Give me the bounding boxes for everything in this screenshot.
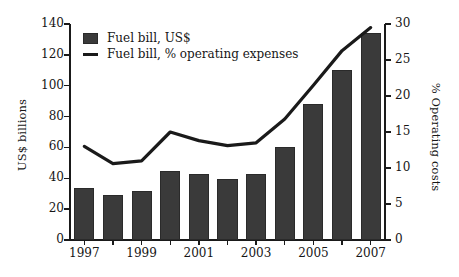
y-axis-right-tick <box>385 239 391 240</box>
legend-label-bar: Fuel bill, US$ <box>107 31 191 47</box>
line-swatch-icon <box>83 53 98 56</box>
y-axis-left-tick-label: 120 <box>24 47 64 61</box>
x-axis-tick-label: 2005 <box>283 246 343 260</box>
y-axis-right-tick-label: 20 <box>395 88 429 102</box>
y-axis-left-tick-label: 40 <box>24 170 64 184</box>
y-axis-left-tick-label: 0 <box>24 232 64 246</box>
x-axis-tick-label: 2007 <box>341 246 401 260</box>
y-axis-left-tick-label: 100 <box>24 78 64 92</box>
chart-legend: Fuel bill, US$ Fuel bill, % operating ex… <box>83 31 298 62</box>
y-axis-right-tick-label: 10 <box>395 160 429 174</box>
legend-label-line: Fuel bill, % operating expenses <box>107 47 298 63</box>
y-axis-right-tick <box>385 95 391 96</box>
y-axis-left-tick-label: 140 <box>24 16 64 30</box>
x-axis-tick-label: 1999 <box>112 246 172 260</box>
y-axis-right-tick-label: 0 <box>395 232 429 246</box>
y-axis-right-tick-label: 30 <box>395 16 429 30</box>
y-axis-right-title: % Operating costs <box>429 77 443 197</box>
y-axis-left-tick-label: 20 <box>24 201 64 215</box>
x-axis-tick-label: 1997 <box>54 246 114 260</box>
x-axis-tick-label: 2001 <box>169 246 229 260</box>
y-axis-right-tick-label: 25 <box>395 52 429 66</box>
y-axis-right-tick <box>385 23 391 24</box>
x-axis-tick-label: 2003 <box>226 246 286 260</box>
y-axis-left-tick-label: 60 <box>24 139 64 153</box>
y-axis-right-tick <box>385 203 391 204</box>
chart-container: US$ billions % Operating costs 020406080… <box>0 0 459 277</box>
y-axis-right-tick <box>385 167 391 168</box>
y-axis-right-tick-label: 5 <box>395 196 429 210</box>
bar-swatch-icon <box>83 33 98 44</box>
y-axis-right-tick <box>385 131 391 132</box>
legend-item-bar: Fuel bill, US$ <box>83 31 298 47</box>
y-axis-right-tick-label: 15 <box>395 124 429 138</box>
y-axis-left-tick-label: 80 <box>24 109 64 123</box>
legend-item-line: Fuel bill, % operating expenses <box>83 47 298 63</box>
y-axis-right-tick <box>385 59 391 60</box>
